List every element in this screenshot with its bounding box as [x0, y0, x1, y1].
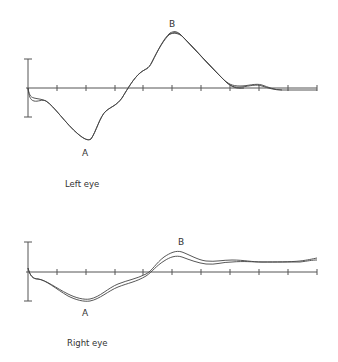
eog-figure: A B Left eye A B Right eye — [0, 0, 338, 362]
right-x-axis — [26, 269, 317, 275]
left-eye-chart: A B Left eye — [24, 19, 317, 189]
right-trace-2 — [28, 256, 317, 301]
right-trace-1 — [28, 251, 317, 299]
right-eye-caption: Right eye — [67, 338, 108, 348]
left-x-axis — [26, 85, 317, 91]
left-eye-caption: Left eye — [65, 179, 99, 189]
left-label-b: B — [169, 19, 175, 29]
right-eye-chart: A B Right eye — [24, 237, 317, 348]
right-label-a: A — [82, 308, 89, 318]
right-label-b: B — [178, 237, 184, 247]
left-label-a: A — [82, 148, 89, 158]
left-trace-3 — [168, 33, 244, 88]
